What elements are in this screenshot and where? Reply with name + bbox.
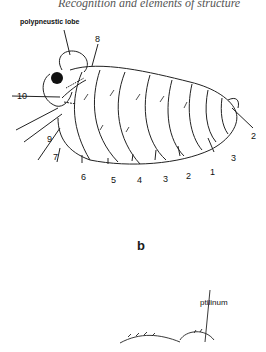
label-segment-3b: 3 [231, 153, 236, 163]
label-segment-4: 4 [137, 175, 142, 185]
label-segment-9: 9 [47, 134, 52, 144]
label-ptilinum: ptilinum [200, 298, 228, 307]
label-segment-10: 10 [17, 91, 27, 101]
label-segment-5: 5 [111, 175, 116, 185]
label-segment-7: 7 [53, 152, 58, 162]
label-segment-8: 8 [95, 34, 100, 44]
label-segment-6: 6 [81, 172, 86, 182]
label-segment-3a: 3 [163, 174, 168, 184]
label-segment-2a: 2 [186, 171, 191, 181]
label-segment-2b: 2 [251, 131, 256, 141]
label-segment-1: 1 [210, 167, 215, 177]
panel-letter-b: b [137, 238, 145, 253]
spiracle-cluster [51, 72, 63, 84]
label-polypneustic-lobe: polypneustic lobe [20, 18, 80, 25]
